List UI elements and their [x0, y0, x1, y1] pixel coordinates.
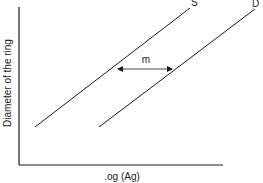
m-label: m	[142, 54, 150, 65]
line-d	[99, 9, 255, 127]
line-s	[35, 8, 190, 127]
series-label-s: S	[191, 0, 198, 8]
x-axis-label: .og (Ag)	[104, 171, 140, 182]
y-axis-label: Diameter of the ring	[2, 39, 13, 127]
chart: S D m .og (Ag) Diameter of the ring	[0, 0, 263, 183]
series-label-d: D	[252, 0, 259, 9]
